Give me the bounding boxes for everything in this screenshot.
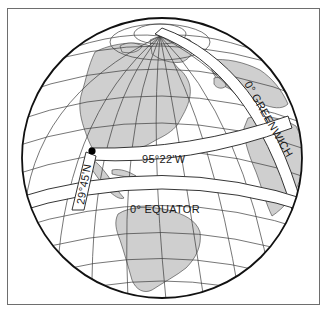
location-marker xyxy=(88,147,95,154)
equator-label: 0° EQUATOR xyxy=(130,203,200,215)
globe-diagram: 95°22'W 0° EQUATOR 29°45'N 0° GREENWICH xyxy=(0,0,326,314)
meridian-95-label: 95°22'W xyxy=(142,153,186,165)
